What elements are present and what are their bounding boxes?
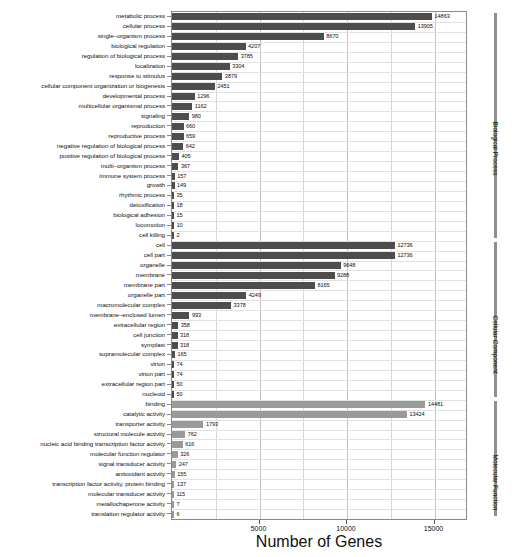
y-axis-tick-label: molecular function regulator <box>90 450 165 457</box>
y-axis-tick-label: nucleic acid binding transcription facto… <box>40 440 165 447</box>
y-axis-tick-label: positive regulation of biological proces… <box>59 152 165 159</box>
bar-row: 35 <box>172 191 466 201</box>
bar-row: 7 <box>172 499 466 509</box>
bar-row: 660 <box>172 121 466 131</box>
bar-value-label: 74 <box>177 361 183 368</box>
y-axis-tick-label: extracellular region <box>114 321 165 328</box>
y-axis-tick-label: reproduction <box>131 122 165 129</box>
bar-row: 18 <box>172 201 466 211</box>
y-axis-tick-label: supramolecular complex <box>99 350 165 357</box>
bar <box>172 351 175 358</box>
bar-row: 659 <box>172 131 466 141</box>
bar-value-label: 1296 <box>197 93 209 100</box>
y-axis-tick-label: reproductive process <box>109 132 165 139</box>
bar-row: 642 <box>172 141 466 151</box>
y-axis-tick-label: locomotion <box>136 221 165 228</box>
bar <box>172 401 425 408</box>
bar-row: 2879 <box>172 72 466 82</box>
y-axis-tick-label: multi–organism process <box>101 162 165 169</box>
bar <box>172 421 203 428</box>
bar-value-label: 7 <box>177 501 180 508</box>
bar-value-label: 616 <box>185 441 194 448</box>
bar-row: 14863 <box>172 12 466 22</box>
y-axis-tick-label: membrane <box>136 271 165 278</box>
bar <box>172 461 176 468</box>
bar-row: 14481 <box>172 400 466 410</box>
bar <box>172 342 178 349</box>
bar <box>172 292 246 299</box>
y-axis-tick-label: macromolecular complex <box>97 301 165 308</box>
x-axis-tick-label: 15000 <box>424 525 443 532</box>
x-axis-tick <box>434 520 435 524</box>
bar-value-label: 18 <box>177 202 183 209</box>
bar-row: 980 <box>172 111 466 121</box>
y-axis-tick-label: translation regulator activity <box>91 510 165 517</box>
y-axis-tick-label: organelle part <box>128 291 165 298</box>
bar <box>172 202 174 209</box>
y-axis-tick-label: virion <box>151 360 166 367</box>
bar <box>172 491 174 498</box>
y-axis-tick-label: molecular transducer activity <box>88 490 165 497</box>
y-axis-tick-label: developmental process <box>102 92 165 99</box>
bar-row: 318 <box>172 330 466 340</box>
bar <box>172 471 175 478</box>
y-axis-tick-label: membrane–enclosed lumen <box>90 311 165 318</box>
bar <box>172 53 238 60</box>
bar <box>172 302 231 309</box>
bar <box>172 73 222 80</box>
bar-value-label: 14863 <box>435 13 450 20</box>
bar <box>172 212 174 219</box>
bar-row: 358 <box>172 320 466 330</box>
bar <box>172 391 174 398</box>
bar-value-label: 15 <box>177 212 183 219</box>
bar <box>172 441 183 448</box>
bar-value-label: 3378 <box>234 302 246 309</box>
bar-row: 6 <box>172 509 466 519</box>
y-axis-tick-label: transporter activity <box>115 420 165 427</box>
bar-value-label: 659 <box>186 133 195 140</box>
bar-row: 149 <box>172 181 466 191</box>
bar-value-label: 50 <box>177 381 183 388</box>
bar <box>172 113 189 120</box>
bar-value-label: 318 <box>180 332 189 339</box>
bar-row: 318 <box>172 340 466 350</box>
bar <box>172 381 174 388</box>
bar-value-label: 2879 <box>225 73 237 80</box>
y-axis-tick-label: immune system process <box>99 172 165 179</box>
bar-value-label: 3304 <box>232 63 244 70</box>
bar-value-label: 642 <box>186 143 195 150</box>
bar-row: 13905 <box>172 22 466 32</box>
bar-value-label: 50 <box>177 391 183 398</box>
bar-row: 10 <box>172 221 466 231</box>
bar-row: 4249 <box>172 290 466 300</box>
bar <box>172 43 246 50</box>
x-axis-tick <box>346 520 347 524</box>
y-axis-tick-label: structural molecule activity <box>94 430 165 437</box>
bar-value-label: 9648 <box>343 262 355 269</box>
bar-row: 50 <box>172 390 466 400</box>
bar-row: 1296 <box>172 92 466 102</box>
bar <box>172 222 174 229</box>
bar-row: 74 <box>172 360 466 370</box>
bar <box>172 153 179 160</box>
bar <box>172 332 178 339</box>
bar <box>172 262 341 269</box>
bar-row: 2 <box>172 231 466 241</box>
x-axis-tick-label: 5000 <box>251 525 267 532</box>
bar <box>172 123 184 130</box>
y-axis-tick-label: virion part <box>138 370 165 377</box>
bar-value-label: 74 <box>177 371 183 378</box>
go-term-bar-chart: metabolic processcellular processsingle–… <box>0 0 520 557</box>
y-axis-tick-label: organelle <box>140 261 165 268</box>
y-axis-tick-label: binding <box>145 400 165 407</box>
bracket-label-cc: Cellular Component <box>492 316 499 374</box>
bar-value-label: 137 <box>177 481 186 488</box>
bar-row: 247 <box>172 459 466 469</box>
y-axis-labels: metabolic processcellular processsingle–… <box>0 11 169 520</box>
bar <box>172 23 415 30</box>
bar-value-label: 247 <box>179 461 188 468</box>
bar-row: 762 <box>172 430 466 440</box>
bar <box>172 63 230 70</box>
y-axis-tick-label: signal transducer activity <box>99 460 165 467</box>
y-axis-tick-label: cell killing <box>139 231 165 238</box>
